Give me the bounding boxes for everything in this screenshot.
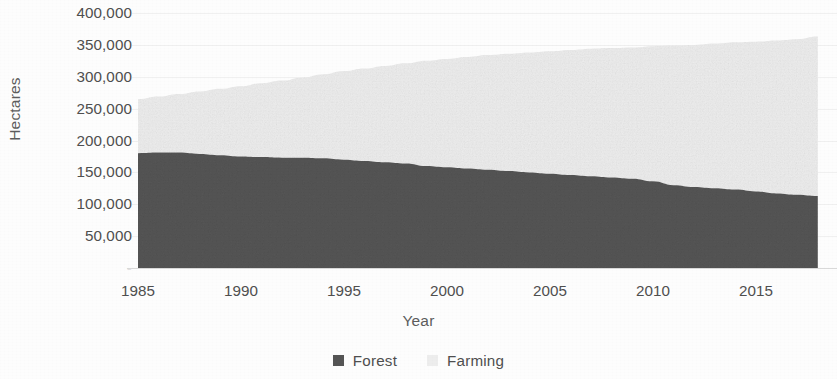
y-tick-label-350000: 350,000 [12, 37, 132, 52]
y-tick-label-300000: 300,000 [12, 69, 132, 84]
x-tick-label-1995: 1995 [304, 282, 384, 299]
y-tick-label-400000: 400,000 [12, 5, 132, 20]
plot-area [127, 6, 837, 269]
y-tick-label-100000: 100,000 [12, 197, 132, 212]
y-tick-label-200000: 200,000 [12, 133, 132, 148]
y-axis-title: Hectares [6, 64, 28, 154]
x-tick-label-2015: 2015 [716, 282, 796, 299]
x-tick-label-2010: 2010 [613, 282, 693, 299]
y-tick-label-0: - [12, 260, 132, 275]
legend-label-forest: Forest [353, 352, 397, 369]
legend-item-farming[interactable]: Farming [427, 352, 504, 369]
stacked-area-chart: -50,000100,000150,000200,000250,000300,0… [0, 0, 837, 379]
legend-item-forest[interactable]: Forest [333, 352, 397, 369]
x-axis-baseline [127, 268, 837, 269]
x-axis-title: Year [0, 312, 837, 330]
y-tick-label-250000: 250,000 [12, 101, 132, 116]
chart-legend: ForestFarming [0, 352, 837, 369]
legend-swatch-icon-forest [333, 355, 344, 366]
y-tick-label-150000: 150,000 [12, 165, 132, 180]
y-tick-label-50000: 50,000 [12, 228, 132, 243]
x-tick-label-1990: 1990 [201, 282, 281, 299]
x-tick-label-2005: 2005 [510, 282, 590, 299]
legend-swatch-icon-farming [427, 355, 438, 366]
plot-svg [127, 6, 837, 269]
x-tick-label-2000: 2000 [407, 282, 487, 299]
legend-label-farming: Farming [447, 352, 504, 369]
x-tick-label-1985: 1985 [98, 282, 178, 299]
